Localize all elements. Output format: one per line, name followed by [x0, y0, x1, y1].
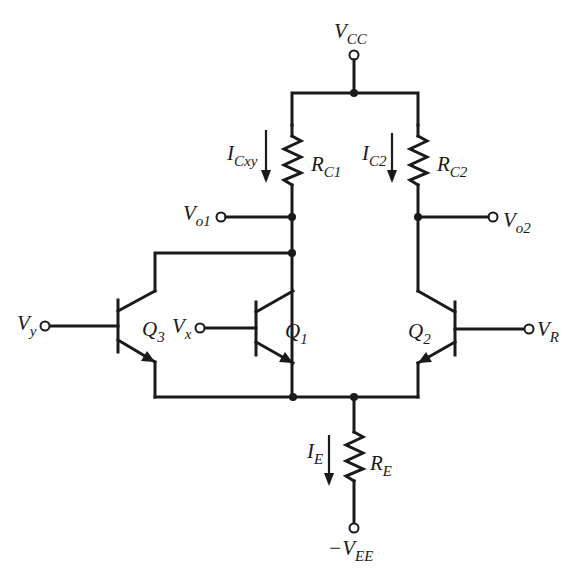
junction-dot [414, 213, 422, 221]
top-rail [292, 93, 418, 125]
transistor-q2 [418, 291, 534, 397]
current-arrow-icxy [261, 130, 271, 183]
circuit-schematic: VCC ICxy RC1 IC2 RC2 Vo1 Vo2 Vy Q3 Vx Q1… [0, 0, 574, 586]
label-vo2: Vo2 [503, 208, 531, 236]
vee-terminal [350, 524, 359, 533]
label-vee: −VEE [328, 536, 373, 564]
vr-terminal[interactable] [525, 325, 534, 334]
label-vo1: Vo1 [183, 201, 211, 229]
bottom-rail [155, 393, 418, 401]
junction-dot [288, 213, 296, 221]
label-vcc: VCC [334, 19, 368, 47]
current-arrow-ie [324, 435, 334, 486]
transistor-q3 [41, 291, 156, 397]
vcc-terminal [350, 51, 359, 60]
vo1-terminal[interactable] [217, 213, 226, 222]
junction-dot [350, 89, 358, 97]
label-rc1: RC1 [310, 152, 341, 180]
label-re: RE [369, 451, 392, 479]
q3-collector-wire [155, 249, 296, 291]
junction-dot [289, 393, 297, 401]
vy-terminal[interactable] [41, 322, 50, 331]
label-q2: Q2 [408, 319, 431, 347]
q3-collector [118, 291, 155, 311]
label-vy: Vy [17, 311, 37, 339]
label-q1: Q1 [285, 319, 308, 347]
label-icxy: ICxy [226, 141, 258, 169]
label-rc2: RC2 [436, 152, 468, 180]
output-vo1 [217, 213, 297, 222]
label-vr: VR [537, 317, 559, 345]
vo2-terminal[interactable] [489, 213, 498, 222]
q2-collector [418, 291, 455, 312]
q1-collector [256, 291, 293, 312]
current-arrow-ic2 [387, 133, 397, 183]
label-ic2: IC2 [361, 141, 387, 169]
resistor-re [346, 397, 363, 533]
junction-dot [288, 249, 296, 257]
label-vx: Vx [172, 314, 192, 342]
vx-terminal[interactable] [196, 324, 205, 333]
transistor-q1 [196, 291, 294, 363]
label-q3: Q3 [142, 317, 165, 345]
vcc-node [292, 51, 418, 126]
label-ie: IE [306, 439, 323, 467]
resistor-rc2 [410, 125, 427, 291]
output-vo2 [414, 213, 498, 222]
